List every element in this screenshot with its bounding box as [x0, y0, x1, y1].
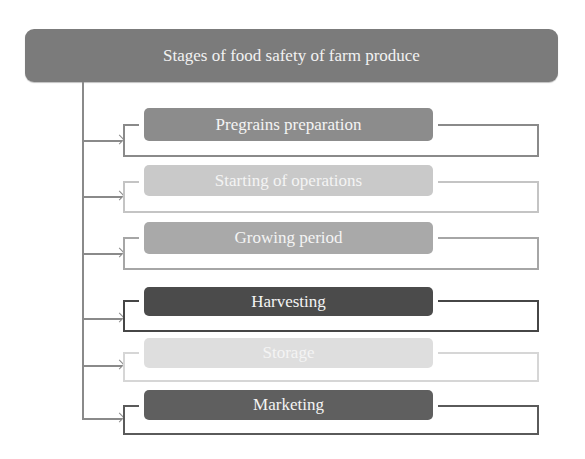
stage-label: Marketing	[253, 395, 324, 415]
bracket-right-top	[438, 405, 539, 407]
stage-box: Harvesting	[144, 287, 433, 316]
bracket-bottom	[123, 330, 539, 332]
bracket-bottom	[123, 433, 539, 435]
diagram-title-box: Stages of food safety of farm produce	[25, 29, 558, 82]
bracket-right-vertical	[537, 124, 539, 155]
bracket-left-top	[123, 237, 139, 239]
stage-box: Marketing	[144, 390, 433, 420]
bracket-right-vertical	[537, 181, 539, 211]
main-connector-line	[82, 82, 84, 418]
stage-label: Starting of operations	[215, 171, 362, 191]
bracket-right-top	[438, 181, 539, 183]
bracket-left-vertical	[123, 181, 125, 211]
diagram-title: Stages of food safety of farm produce	[163, 46, 420, 66]
stage-box: Pregrains preparation	[144, 108, 433, 141]
bracket-right-vertical	[537, 300, 539, 330]
bracket-right-vertical	[537, 405, 539, 433]
bracket-left-vertical	[123, 352, 125, 380]
bracket-bottom	[123, 268, 539, 270]
bracket-left-vertical	[123, 405, 125, 433]
bracket-bottom	[123, 211, 539, 213]
stage-box: Storage	[144, 338, 433, 368]
bracket-right-top	[438, 352, 539, 354]
stage-label: Pregrains preparation	[216, 115, 362, 135]
stage-label: Growing period	[234, 228, 342, 248]
bracket-left-top	[123, 405, 139, 407]
bracket-right-vertical	[537, 352, 539, 380]
stage-box: Growing period	[144, 222, 433, 254]
stage-box: Starting of operations	[144, 165, 433, 196]
bracket-right-vertical	[537, 237, 539, 268]
bracket-left-top	[123, 352, 139, 354]
bracket-right-top	[438, 124, 539, 126]
bracket-bottom	[123, 380, 539, 382]
bracket-right-top	[438, 300, 539, 302]
bracket-left-top	[123, 300, 139, 302]
bracket-bottom	[123, 155, 539, 157]
stage-label: Harvesting	[251, 292, 326, 312]
stage-label: Storage	[263, 343, 315, 363]
bracket-left-vertical	[123, 124, 125, 155]
bracket-right-top	[438, 237, 539, 239]
bracket-left-top	[123, 124, 139, 126]
bracket-left-vertical	[123, 300, 125, 330]
bracket-left-top	[123, 181, 139, 183]
bracket-left-vertical	[123, 237, 125, 268]
